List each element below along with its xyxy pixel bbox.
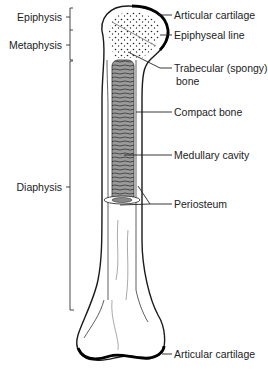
epiphysis-bracket [66, 8, 73, 30]
metaphysis-bracket [66, 30, 73, 60]
label-diaphysis: Diaphysis [4, 181, 62, 193]
label-epiphysis: Epiphysis [4, 11, 62, 23]
long-bone-diagram: Epiphysis Metaphysis Diaphysis Articular… [0, 0, 268, 374]
label-periosteum: Periosteum [174, 198, 227, 210]
label-compact-bone: Compact bone [174, 106, 242, 118]
label-articular-cartilage-bottom: Articular cartilage [174, 348, 255, 360]
label-epiphyseal-line: Epiphyseal line [174, 29, 245, 41]
label-metaphysis: Metaphysis [2, 39, 62, 51]
diaphysis-bracket [66, 61, 74, 310]
label-medullary-cavity: Medullary cavity [174, 149, 249, 161]
label-trabecular-bone: Trabecular (spongy) [174, 62, 268, 74]
label-trabecular-bone-line2: bone [176, 75, 199, 87]
label-articular-cartilage-top: Articular cartilage [174, 9, 255, 21]
